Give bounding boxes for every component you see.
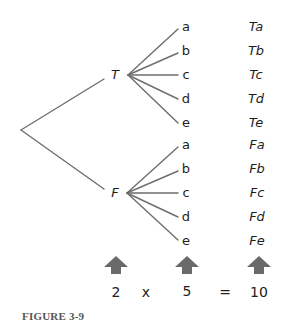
node-t: T (111, 67, 119, 83)
leaf-f-d: d (182, 209, 190, 225)
node-f: F (111, 185, 118, 201)
tree-diagram: T F a b c d e a b c d e Ta Tb Tc Td Te F… (0, 0, 292, 333)
outcome-fb: Fb (249, 161, 265, 177)
equation-equals: = (219, 284, 231, 300)
outcome-ta: Ta (249, 19, 264, 35)
leaf-t-c: c (182, 67, 189, 83)
equation-left: 2 (112, 284, 121, 300)
up-arrow-icon (247, 256, 271, 274)
outcome-fa: Fa (249, 137, 264, 153)
equation-times: x (142, 284, 150, 300)
leaf-f-b: b (182, 161, 190, 177)
equation-result: 10 (250, 284, 268, 300)
outcome-tc: Tc (249, 67, 262, 83)
outcome-te: Te (249, 115, 263, 131)
leaf-f-a: a (182, 137, 190, 153)
leaf-f-c: c (182, 185, 189, 201)
figure-caption: FIGURE 3-9 (22, 310, 84, 322)
leaf-t-e: e (182, 115, 190, 131)
outcome-td: Td (248, 91, 264, 107)
up-arrow-icon (175, 256, 199, 274)
leaf-t-d: d (182, 91, 190, 107)
outcome-fe: Fe (249, 233, 264, 249)
outcome-tb: Tb (248, 43, 264, 59)
equation-middle: 5 (183, 283, 192, 299)
outcome-fd: Fd (249, 209, 265, 225)
leaf-t-a: a (182, 19, 190, 35)
leaf-f-e: e (182, 233, 190, 249)
outcome-fc: Fc (250, 185, 265, 201)
up-arrow-icon (104, 256, 128, 274)
leaf-t-b: b (182, 43, 190, 59)
